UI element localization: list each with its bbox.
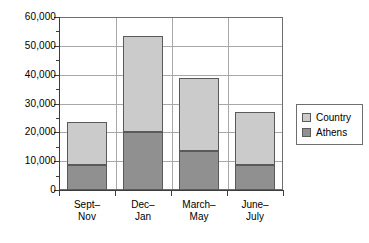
x-tick (115, 191, 116, 196)
legend-item: Country (302, 110, 362, 125)
x-tick (171, 191, 172, 196)
y-tick-minor (56, 31, 59, 32)
bar-segment-country (123, 36, 163, 132)
legend-label: Athens (316, 128, 347, 138)
y-axis-tick-label: 40,000 (25, 70, 56, 80)
x-tick (283, 191, 284, 196)
y-tick-minor (56, 89, 59, 90)
gridline-vertical (116, 18, 117, 189)
legend-swatch (302, 113, 311, 122)
y-tick-minor (56, 176, 59, 177)
y-axis-tick-label: 10,000 (25, 156, 56, 166)
x-tick (227, 191, 228, 196)
gridline-vertical (228, 18, 229, 189)
legend-item: Athens (302, 125, 362, 140)
chart-legend: CountryAthens (296, 104, 363, 145)
legend-label: Country (316, 113, 351, 123)
bar-segment-athens (123, 132, 163, 190)
legend-swatch (302, 128, 311, 137)
gridline-vertical (172, 18, 173, 189)
bar-stack (123, 17, 163, 190)
bar-segment-athens (67, 165, 107, 190)
bar-segment-country (179, 78, 219, 151)
x-axis-category-label: June–July (215, 199, 295, 223)
y-axis-line (59, 17, 60, 191)
y-tick-minor (56, 147, 59, 148)
bar-stack (235, 17, 275, 190)
y-tick-minor (56, 118, 59, 119)
y-axis-tick-label: 0 (50, 185, 56, 195)
x-tick (59, 191, 60, 196)
bar-stack (67, 17, 107, 190)
bar-segment-country (235, 112, 275, 166)
bar-segment-athens (235, 165, 275, 190)
y-axis-tick-label: 50,000 (25, 41, 56, 51)
bar-segment-country (67, 122, 107, 165)
bar-stack (179, 17, 219, 190)
y-tick-minor (56, 60, 59, 61)
bar-segment-athens (179, 151, 219, 190)
y-axis-tick-label: 30,000 (25, 99, 56, 109)
stacked-bar-chart: 010,00020,00030,00040,00050,00060,000 Se… (0, 0, 369, 243)
y-axis-tick-label: 20,000 (25, 127, 56, 137)
y-axis-tick-label: 60,000 (25, 12, 56, 22)
